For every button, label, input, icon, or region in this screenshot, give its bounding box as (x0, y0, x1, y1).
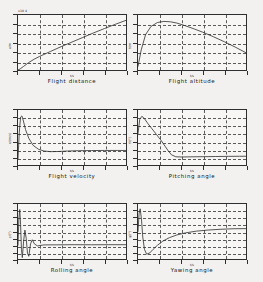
y-axis-tick (133, 52, 137, 53)
x-axis-tick (159, 166, 160, 170)
data-curve (138, 204, 246, 259)
x-axis-tick (83, 166, 84, 170)
y-axis-tick (13, 210, 17, 211)
panel-caption: Pitching angle (137, 173, 247, 179)
y-axis-label: θ/(°) (128, 137, 132, 144)
x-axis-tick (181, 71, 182, 75)
x-axis-tick (137, 71, 138, 75)
plot-area (17, 14, 127, 71)
x-axis-tick (61, 71, 62, 75)
x-axis-tick (247, 71, 248, 75)
y-axis-tick (13, 117, 17, 118)
x-axis-tick (247, 166, 248, 170)
chart-panel-flight-altitude: h/mt/sFlight altitude (137, 14, 247, 71)
y-axis-tick (133, 33, 137, 34)
x-axis-tick (39, 260, 40, 264)
x-axis-tick (61, 260, 62, 264)
y-axis-tick (13, 158, 17, 159)
chart-panel-rolling-angle: γ/(°)t/sRolling angle (17, 203, 127, 260)
y-axis-tick (13, 125, 17, 126)
y-axis-tick (133, 217, 137, 218)
panel-caption: Yawing angle (137, 267, 247, 273)
plot-area (17, 203, 127, 260)
x-axis-tick (225, 260, 226, 264)
y-axis-tick (13, 203, 17, 204)
x-axis-tick (137, 166, 138, 170)
x-axis-tick (105, 260, 106, 264)
data-curve (18, 110, 126, 165)
y-axis-tick (133, 24, 137, 25)
y-axis-tick (133, 133, 137, 134)
y-axis-tick (133, 142, 137, 143)
data-curve (18, 15, 126, 70)
x-axis-tick (181, 166, 182, 170)
y-axis-tick (133, 210, 137, 211)
y-axis-tick (133, 62, 137, 63)
y-axis-tick (13, 133, 17, 134)
y-axis-tick (133, 224, 137, 225)
y-axis-tick (133, 158, 137, 159)
y-axis-tick (133, 109, 137, 110)
x-axis-tick (127, 71, 128, 75)
x-axis-tick (39, 166, 40, 170)
y-axis-tick (133, 232, 137, 233)
x-axis-tick (39, 71, 40, 75)
y-axis-label: γ/(°) (8, 231, 12, 238)
y-axis-tick (13, 232, 17, 233)
x-axis-tick (159, 71, 160, 75)
data-curve (138, 15, 246, 70)
plot-area (137, 203, 247, 260)
plot-area (137, 14, 247, 71)
y-axis-tick (133, 43, 137, 44)
chart-panel-yawing-angle: ψ/(°)t/sYawing angle (137, 203, 247, 260)
x-axis-tick (137, 260, 138, 264)
x-axis-tick (203, 260, 204, 264)
y-axis-tick (133, 117, 137, 118)
y-axis-tick (13, 142, 17, 143)
chart-panel-flight-velocity: v/(m/s)t/sFlight velocity (17, 109, 127, 166)
panel-caption: Flight velocity (17, 173, 127, 179)
y-axis-label: ψ/(°) (128, 230, 132, 237)
x-axis-tick (17, 260, 18, 264)
y-axis-tick (13, 239, 17, 240)
x-axis-tick (17, 166, 18, 170)
y-axis-label: v/(m/s) (8, 133, 12, 144)
y-axis-exponent: x10 4 (18, 9, 27, 13)
y-axis-tick (13, 217, 17, 218)
x-axis-tick (203, 166, 204, 170)
y-axis-tick (13, 150, 17, 151)
y-axis-tick (133, 253, 137, 254)
data-curve (18, 204, 126, 259)
panel-caption: Flight altitude (137, 78, 247, 84)
x-axis-tick (105, 166, 106, 170)
y-axis-tick (133, 150, 137, 151)
y-axis-tick (133, 125, 137, 126)
y-axis-tick (13, 33, 17, 34)
y-axis-tick (13, 253, 17, 254)
x-axis-tick (127, 166, 128, 170)
y-axis-tick (13, 224, 17, 225)
plot-area (17, 109, 127, 166)
y-axis-tick (13, 62, 17, 63)
y-axis-tick (13, 14, 17, 15)
y-axis-tick (133, 14, 137, 15)
y-axis-tick (13, 43, 17, 44)
x-axis-tick (17, 71, 18, 75)
x-axis-tick (61, 166, 62, 170)
chart-panel-pitching-angle: θ/(°)t/sPitching angle (137, 109, 247, 166)
y-axis-tick (13, 52, 17, 53)
y-axis-tick (13, 246, 17, 247)
x-axis-tick (247, 260, 248, 264)
y-axis-tick (13, 109, 17, 110)
x-axis-tick (181, 260, 182, 264)
x-axis-tick (127, 260, 128, 264)
y-axis-label: x/m (8, 43, 12, 49)
x-axis-tick (83, 260, 84, 264)
figure-sheet: x10 4x/mt/sFlight distanceh/mt/sFlight a… (0, 0, 263, 282)
chart-panel-flight-distance: x10 4x/mt/sFlight distance (17, 14, 127, 71)
y-axis-tick (133, 239, 137, 240)
y-axis-label: h/m (128, 42, 132, 48)
x-axis-tick (203, 71, 204, 75)
x-axis-tick (225, 71, 226, 75)
x-axis-tick (159, 260, 160, 264)
